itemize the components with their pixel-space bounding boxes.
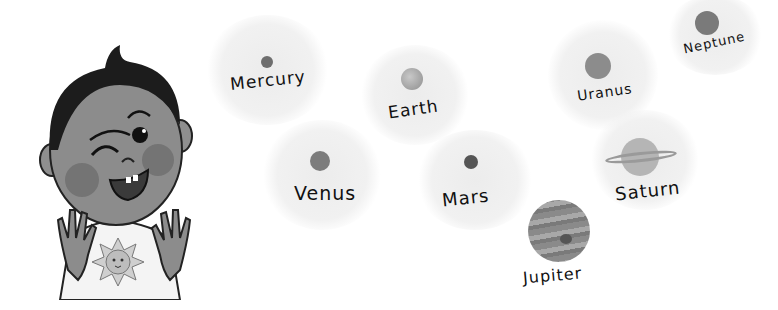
cloud-earth — [360, 45, 470, 145]
planet-saturn-icon — [605, 138, 677, 178]
cloud-mars — [415, 130, 535, 230]
label-venus: Venus — [294, 182, 356, 204]
planets-illustration: Mercury Earth Uranus Neptune Venus Mars … — [0, 0, 778, 310]
planet-jupiter-icon — [528, 200, 590, 262]
cloud-venus — [262, 120, 382, 230]
label-jupiter: Jupiter — [522, 263, 583, 287]
planet-mars-icon — [464, 155, 478, 169]
planet-venus-icon — [310, 151, 330, 171]
planet-uranus-icon — [585, 53, 611, 79]
planet-earth-icon — [401, 68, 423, 90]
planet-neptune-icon — [695, 11, 719, 35]
planet-mercury-icon — [261, 56, 273, 68]
boy-character-icon — [30, 40, 210, 300]
